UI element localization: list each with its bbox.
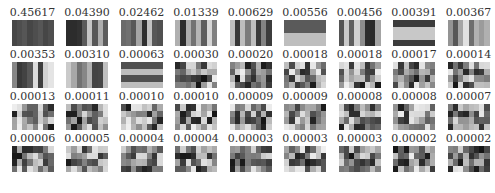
eigenvalue-label: 0.00008 — [337, 90, 383, 104]
eigenvalue-label: 0.00009 — [282, 90, 328, 104]
pattern-cell: 0.00456 — [333, 6, 386, 48]
basis-pattern-tile — [66, 104, 108, 130]
eigenvalue-label: 0.00030 — [173, 48, 219, 62]
basis-pattern-tile — [339, 62, 381, 88]
eigenvalue-label: 0.02462 — [119, 6, 165, 20]
basis-pattern-tile — [66, 146, 108, 172]
pattern-cell: 0.00004 — [115, 132, 168, 174]
basis-pattern-tile — [121, 20, 163, 46]
eigenvalue-label: 0.00003 — [337, 132, 383, 146]
eigenvalue-label: 0.00010 — [119, 90, 165, 104]
eigenvalue-label: 0.00014 — [446, 48, 492, 62]
pattern-cell: 0.00010 — [170, 90, 223, 132]
basis-pattern-tile — [12, 104, 54, 130]
basis-pattern-tile — [230, 20, 272, 46]
pattern-cell: 0.00004 — [170, 132, 223, 174]
pattern-cell: 0.00353 — [6, 48, 59, 90]
eigenvalue-label: 0.00005 — [64, 132, 110, 146]
basis-pattern-tile — [230, 146, 272, 172]
basis-pattern-tile — [393, 20, 435, 46]
pattern-cell: 0.00018 — [279, 48, 332, 90]
pattern-cell: 0.00003 — [224, 132, 277, 174]
pattern-cell: 0.00018 — [333, 48, 386, 90]
basis-pattern-tile — [284, 146, 326, 172]
pattern-cell: 0.00367 — [442, 6, 495, 48]
eigenvalue-label: 0.01339 — [173, 6, 219, 20]
eigenvalue-label: 0.00002 — [391, 132, 437, 146]
pattern-cell: 0.00391 — [388, 6, 441, 48]
basis-pattern-tile — [284, 104, 326, 130]
pattern-cell: 0.00008 — [333, 90, 386, 132]
basis-pattern-tile — [230, 62, 272, 88]
basis-pattern-tile — [12, 146, 54, 172]
eigenvalue-label: 0.00004 — [173, 132, 219, 146]
eigenvalue-label: 0.00629 — [228, 6, 274, 20]
basis-pattern-tile — [121, 62, 163, 88]
eigenvalue-label: 0.00456 — [337, 6, 383, 20]
eigenvalue-label: 0.00009 — [228, 90, 274, 104]
basis-pattern-tile — [175, 20, 217, 46]
eigenvalue-label: 0.00353 — [10, 48, 56, 62]
basis-pattern-tile — [121, 104, 163, 130]
basis-pattern-tile — [121, 146, 163, 172]
basis-pattern-tile — [393, 62, 435, 88]
pattern-cell: 0.00009 — [224, 90, 277, 132]
pattern-cell: 0.00013 — [6, 90, 59, 132]
eigenvalue-label: 0.00020 — [228, 48, 274, 62]
basis-pattern-tile — [230, 104, 272, 130]
pattern-cell: 0.00003 — [333, 132, 386, 174]
basis-pattern-tile — [284, 20, 326, 46]
pattern-cell: 0.00020 — [224, 48, 277, 90]
pattern-cell: 0.00017 — [388, 48, 441, 90]
pattern-cell: 0.00005 — [61, 132, 114, 174]
basis-pattern-tile — [175, 146, 217, 172]
pattern-cell: 0.45617 — [6, 6, 59, 48]
eigenvalue-label: 0.00367 — [446, 6, 492, 20]
basis-pattern-tile — [393, 146, 435, 172]
eigenvalue-label: 0.00013 — [10, 90, 56, 104]
basis-pattern-tile — [175, 104, 217, 130]
basis-pattern-tile — [339, 20, 381, 46]
basis-pattern-tile — [66, 20, 108, 46]
basis-pattern-tile — [393, 104, 435, 130]
eigenvalue-label: 0.45617 — [10, 6, 56, 20]
basis-pattern-tile — [448, 62, 490, 88]
eigenvalue-label: 0.00556 — [282, 6, 328, 20]
pattern-cell: 0.00008 — [388, 90, 441, 132]
eigenvalue-label: 0.00004 — [119, 132, 165, 146]
eigenvalue-label: 0.00310 — [64, 48, 110, 62]
pattern-cell: 0.00003 — [279, 132, 332, 174]
eigenvalue-label: 0.00003 — [282, 132, 328, 146]
eigenvalue-label: 0.04390 — [64, 6, 110, 20]
basis-pattern-tile — [66, 62, 108, 88]
pattern-cell: 0.00556 — [279, 6, 332, 48]
pattern-cell: 0.02462 — [115, 6, 168, 48]
pattern-cell: 0.00006 — [6, 132, 59, 174]
basis-pattern-grid: 0.456170.043900.024620.013390.006290.005… — [6, 6, 495, 174]
pattern-cell: 0.00009 — [279, 90, 332, 132]
basis-pattern-tile — [12, 20, 54, 46]
pattern-cell: 0.00002 — [442, 132, 495, 174]
pattern-cell: 0.00014 — [442, 48, 495, 90]
basis-pattern-tile — [284, 62, 326, 88]
basis-pattern-tile — [448, 104, 490, 130]
basis-pattern-tile — [12, 62, 54, 88]
pattern-cell: 0.04390 — [61, 6, 114, 48]
pattern-cell: 0.00007 — [442, 90, 495, 132]
pattern-cell: 0.00010 — [115, 90, 168, 132]
eigenvalue-label: 0.00006 — [10, 132, 56, 146]
pattern-cell: 0.00063 — [115, 48, 168, 90]
pattern-cell: 0.00011 — [61, 90, 114, 132]
basis-pattern-tile — [175, 62, 217, 88]
eigenvalue-label: 0.00007 — [446, 90, 492, 104]
pattern-cell: 0.00629 — [224, 6, 277, 48]
pattern-cell: 0.00310 — [61, 48, 114, 90]
pattern-cell: 0.01339 — [170, 6, 223, 48]
basis-pattern-tile — [339, 104, 381, 130]
eigenvalue-label: 0.00002 — [446, 132, 492, 146]
eigenvalue-label: 0.00063 — [119, 48, 165, 62]
pattern-cell: 0.00002 — [388, 132, 441, 174]
eigenvalue-label: 0.00391 — [391, 6, 437, 20]
eigenvalue-label: 0.00011 — [64, 90, 110, 104]
basis-pattern-tile — [448, 146, 490, 172]
